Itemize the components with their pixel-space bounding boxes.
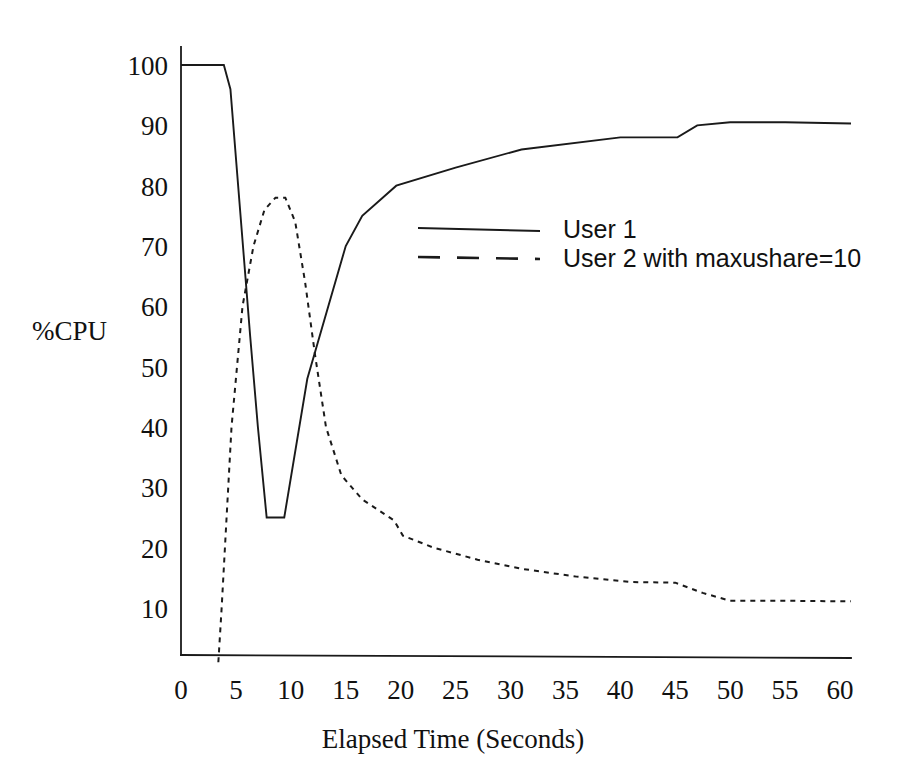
x-tick-label-15: 15 [332, 675, 359, 705]
y-tick-label-20: 20 [141, 534, 168, 564]
x-tick-label-50: 50 [717, 675, 744, 705]
y-tick-label-60: 60 [141, 292, 168, 322]
chart-canvas: 102030405060708090100 051015202530354045… [0, 0, 906, 781]
x-tick-label-5: 5 [229, 675, 243, 705]
x-tick-label-20: 20 [387, 675, 414, 705]
x-tick-label-10: 10 [277, 675, 304, 705]
legend-label-user-2: User 2 with maxushare=10 [563, 244, 861, 272]
x-axis-title: Elapsed Time (Seconds) [322, 724, 585, 754]
legend-label-user-1: User 1 [563, 215, 637, 243]
x-tick-label-55: 55 [772, 675, 799, 705]
y-tick-label-50: 50 [141, 353, 168, 383]
y-tick-label-70: 70 [141, 232, 168, 262]
y-axis-title: %CPU [32, 316, 107, 346]
x-tick-label-25: 25 [442, 675, 469, 705]
y-tick-label-40: 40 [141, 413, 168, 443]
x-tick-label-60: 60 [827, 675, 854, 705]
x-tick-label-45: 45 [662, 675, 689, 705]
x-tick-label-40: 40 [607, 675, 634, 705]
cpu-utilization-chart: 102030405060708090100 051015202530354045… [0, 0, 906, 781]
x-tick-label-30: 30 [497, 675, 524, 705]
y-tick-label-80: 80 [141, 172, 168, 202]
y-tick-label-100: 100 [128, 51, 169, 81]
x-tick-label-35: 35 [552, 675, 579, 705]
chart-background [0, 0, 906, 781]
y-tick-label-10: 10 [141, 594, 168, 624]
y-tick-label-30: 30 [141, 473, 168, 503]
y-tick-label-90: 90 [141, 111, 168, 141]
x-tick-label-0: 0 [174, 675, 188, 705]
